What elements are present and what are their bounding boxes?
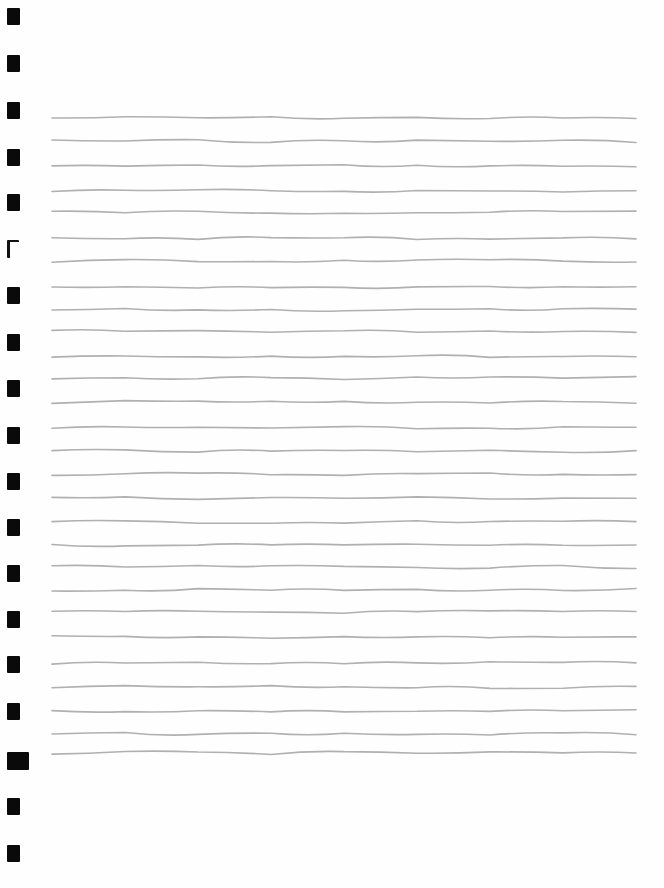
- ruled-line: [52, 521, 636, 524]
- ruled-line: [52, 377, 636, 380]
- ruled-line: [52, 355, 636, 357]
- ruled-line: [52, 140, 636, 143]
- ruled-line: [52, 686, 636, 689]
- ruled-line: [52, 308, 636, 311]
- ruled-line: [52, 497, 636, 500]
- ruled-line: [52, 473, 636, 476]
- ruled-line: [52, 733, 636, 736]
- ruled-line: [52, 544, 636, 547]
- ruled-line: [52, 286, 636, 288]
- ruled-line: [52, 426, 636, 428]
- ruled-line: [52, 565, 636, 568]
- ruled-line: [52, 117, 636, 119]
- ruled-line: [52, 211, 636, 214]
- ruled-line: [52, 189, 636, 192]
- ruled-line: [52, 401, 636, 404]
- ruled-line: [52, 237, 636, 240]
- ruled-line: [52, 259, 636, 262]
- ruled-line: [52, 330, 636, 333]
- lined-paper-page: [0, 0, 664, 888]
- ruled-line: [52, 662, 636, 665]
- ruled-line: [52, 751, 636, 754]
- ruled-line: [52, 165, 636, 167]
- ruled-line: [52, 589, 636, 592]
- ruled-line: [52, 710, 636, 712]
- ruled-lines: [0, 0, 664, 888]
- ruled-line: [52, 449, 636, 452]
- ruled-line: [52, 636, 636, 638]
- ruled-line: [52, 611, 636, 614]
